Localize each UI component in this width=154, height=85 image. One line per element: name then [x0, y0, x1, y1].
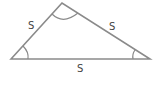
top-angle-arc — [52, 13, 78, 19]
triangle — [11, 3, 150, 59]
right-side-label: S — [109, 21, 115, 32]
left-angle-arc — [23, 46, 28, 59]
triangle-diagram: S S S — [0, 0, 154, 85]
right-angle-arc — [133, 50, 135, 59]
left-side-label: S — [28, 20, 34, 31]
base-label: S — [77, 63, 83, 74]
